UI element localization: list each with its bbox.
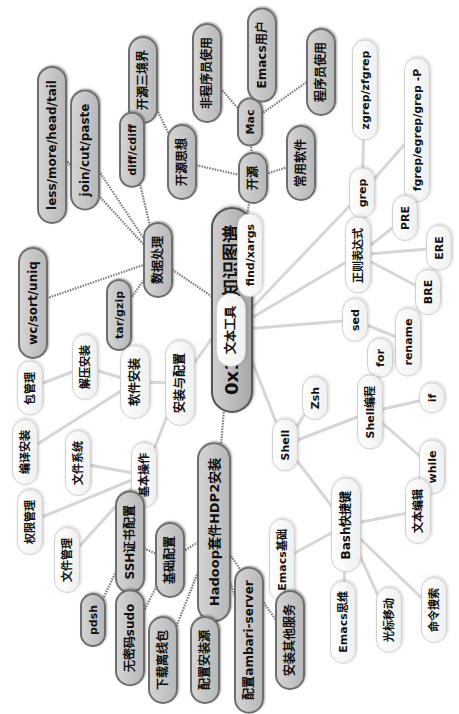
mindmap-node-zhengze[interactable]: 正则表达式 [345,217,371,294]
mindmap-node-ere[interactable]: ERE [426,225,452,271]
mindmap-node-wenben-gongju[interactable]: 文本工具 [216,293,246,367]
mindmap-node-guangbiao-yidong[interactable]: 光标移动 [376,587,402,653]
mindmap-node-wenjian-guanli[interactable]: 文件管理 [54,527,80,593]
mindmap-node-sed[interactable]: sed [342,298,368,342]
mindmap-node-tar-gzip[interactable]: tar/gzip [106,279,132,351]
mindmap-node-changyong-ruanjian[interactable]: 常用软件 [286,125,316,201]
mindmap-node-emacs-user[interactable]: Emacs用户 [247,7,277,102]
mindmap-node-shuju-chuli[interactable]: 数据处理 [143,222,173,298]
mindmap-node-mingling-sousuo[interactable]: 命令搜索 [421,577,447,643]
mindmap-node-jieya-anzhuang[interactable]: 解压安装 [72,334,98,400]
mindmap-node-diff[interactable]: diff/cdiff [119,112,145,188]
mindmap-node-emacs-siwei[interactable]: Emacs思维 [330,580,356,663]
mindmap-node-ruanjian-anzhuang[interactable]: 软件安装 [120,345,150,419]
mindmap-node-rename[interactable]: rename [395,307,421,376]
mindmap-node-zgrep[interactable]: zgrep/zfgrep [352,40,378,141]
mindmap-node-anzhuang-qita[interactable]: 安装其他服务 [275,590,305,690]
mindmap-node-jichu-peizhi[interactable]: 基础配置 [155,522,185,598]
mindmap-node-bianyi-anzhuang[interactable]: 编译安装 [12,419,38,485]
mindmap-node-bre[interactable]: BRE [415,269,441,315]
mindmap-node-less-more[interactable]: less/more/head/tail [37,66,67,224]
mindmap-node-pre[interactable]: PRE [392,195,418,241]
mindmap-node-non-programmer-use[interactable]: 非程序员使用 [192,23,222,123]
mindmap-node-wenben-bianji[interactable]: 文本编辑 [405,478,431,544]
mindmap-node-shell[interactable]: Shell [272,419,298,472]
mindmap-node-fgrep[interactable]: fgrep/egrep/grep -P [404,58,430,203]
mindmap-node-mac[interactable]: Mac [237,98,263,147]
mindmap-node-peizhi-ambari[interactable]: 配置ambari-server [234,566,264,713]
mindmap-node-kaiyuan[interactable]: 开源 [238,152,268,204]
mindmap-node-programmer-use[interactable]: 程序员使用 [306,28,336,116]
mindmap-node-ssh-peizhi[interactable]: SSH证书配置 [115,491,145,594]
mindmap-node-peizhi-anzhuangyuan[interactable]: 配置安装源 [190,616,220,704]
mindmap-node-pdsh[interactable]: pdsh [80,593,106,647]
mindmap-node-wenjian-xitong[interactable]: 文件系统 [65,430,91,496]
mindmap-node-grep[interactable]: grep [349,168,375,219]
connector-line [33,260,158,303]
mindmap-node-zsh[interactable]: Zsh [302,376,328,420]
mindmap-node-anzhuang-peizhi[interactable]: 安装与配置 [165,340,195,426]
mindmap-node-xiazai-lixianbao[interactable]: 下载离线包 [148,616,178,704]
mindmap-node-hadoop[interactable]: Hadoop套件HDP2安装 [197,442,231,622]
mindmap-node-quanxian-guanli[interactable]: 权限管理 [17,489,43,555]
mindmap-node-kaiyuan-sixiang[interactable]: 开源思想 [167,124,197,200]
mindmap-node-kaiyuan-sanjingjie[interactable]: 开源三境界 [128,36,158,124]
mindmap-node-find-xargs[interactable]: find/xargs [237,213,263,297]
mindmap-node-bao-guanli[interactable]: 包管理 [17,361,43,416]
mindmap-node-shell-biancheng[interactable]: Shell编程 [357,375,383,450]
mindmap-node-if[interactable]: if [419,383,445,414]
mindmap-node-bash-kuaijiejian[interactable]: Bash快捷键 [331,478,361,573]
mindmap-node-wc-sort[interactable]: wc/sort/uniq [18,247,48,359]
mindmap-node-join-cut[interactable]: join/cut/paste [70,90,100,211]
mindmap-node-wumima-sudo[interactable]: 无密码sudo [115,590,145,687]
mindmap-node-for[interactable]: for [367,338,393,378]
